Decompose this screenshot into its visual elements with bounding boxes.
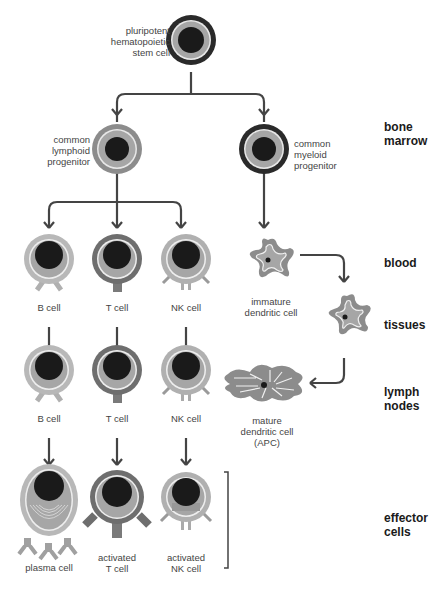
activated-nk-cell-label: activated NK cell [151,552,221,574]
plasma-cell [19,464,78,559]
stage-effector-cells: effector cells [384,511,428,539]
mature-dendritic-cell [224,365,302,402]
b-cell-blood-label: B cell [19,302,79,313]
t-cell-lymph [92,345,142,403]
stage-blood: blood [384,256,417,270]
stem-cell-label: pluripotent hematopoietic stem cell [60,25,170,58]
nk-cell-lymph [161,345,211,401]
myeloid-progenitor-label: common myeloid progenitor [294,138,364,171]
b-cell-blood [24,234,74,290]
t-cell-lymph-label: T cell [87,413,147,424]
activated-t-cell [85,470,149,538]
myeloid-progenitor-cell [239,124,289,174]
t-cell-blood [92,234,142,292]
stage-lymph-nodes: lymph nodes [384,385,419,413]
stage-bone-marrow: bone marrow [384,120,427,148]
lymphoid-progenitor-label: common lymphoid progenitor [20,134,90,167]
nk-cell-lymph-label: NK cell [156,413,216,424]
activated-t-cell-label: activated T cell [82,552,152,574]
activated-nk-cell [161,472,211,530]
plasma-cell-label: plasma cell [9,562,89,573]
mature-dendritic-cell-label: mature dendritic cell (APC) [222,415,312,448]
tissue-dendritic-cell [329,294,371,334]
lymphoid-progenitor-cell [92,124,142,174]
immature-dendritic-cell [250,238,294,277]
t-cell-blood-label: T cell [87,302,147,313]
b-cell-lymph-label: B cell [19,413,79,424]
hematopoiesis-diagram [0,0,447,590]
nk-cell-blood [161,234,211,290]
stage-tissues: tissues [384,318,425,332]
b-cell-lymph [24,345,74,401]
nk-cell-blood-label: NK cell [156,302,216,313]
stem-cell [166,15,216,65]
immature-dendritic-cell-label: immature dendritic cell [226,296,316,318]
